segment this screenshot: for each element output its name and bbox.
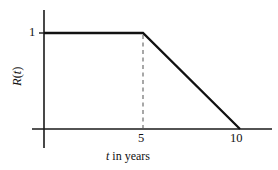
x-axis-label-text: in years xyxy=(109,149,150,163)
reliability-function-chart: 1 5 10 R(t) t in years xyxy=(0,0,278,170)
y-axis-label-symbol: R xyxy=(10,78,24,86)
x-axis-tick-label-10: 10 xyxy=(230,132,243,145)
reliability-curve xyxy=(44,33,240,129)
x-axis-tick-label-5: 5 xyxy=(138,132,144,145)
x-axis-label: t in years xyxy=(106,150,150,162)
y-axis-label-open-paren: ( xyxy=(10,74,24,78)
y-axis-label-variable: t xyxy=(10,71,24,74)
y-axis-label: R(t) xyxy=(11,52,24,100)
y-axis-tick-label-1: 1 xyxy=(29,26,35,39)
y-axis-label-close-paren: ) xyxy=(10,67,24,71)
